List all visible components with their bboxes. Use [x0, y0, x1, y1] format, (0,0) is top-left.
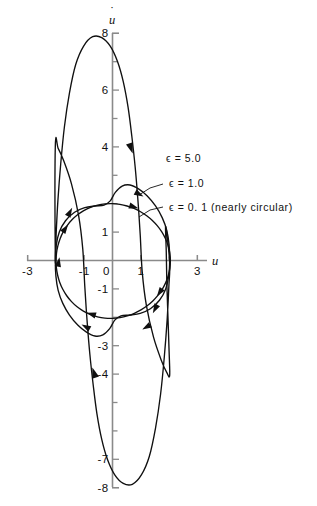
y-tick-label: 6 [102, 84, 109, 96]
arrow-epsilon-1-0-lower-left [82, 325, 92, 332]
arrow-epsilon-0-1-lower-left [87, 313, 97, 319]
x-tick-label: 1 [137, 265, 144, 277]
y-tick-label: -1 [97, 283, 108, 295]
arrow-epsilon-1-0-lower-right [153, 303, 160, 313]
legend-label-eps1: ϵ = 1.0 [169, 177, 204, 189]
x-tick-label: -3 [22, 265, 33, 277]
leader-line-eps1 [139, 184, 163, 195]
axes-group [27, 33, 207, 487]
y-tick-label: -3 [97, 340, 108, 352]
y-axis-label-dot: ˙ [111, 5, 115, 19]
legend-group: ϵ = 5.0 ϵ = 1.0 ϵ = 0. 1 (nearly circula… [166, 152, 293, 213]
y-tick-label: -4 [97, 368, 108, 380]
y-tick-label: 4 [102, 141, 109, 153]
arrow-epsilon-0-1-upper-right [128, 202, 138, 208]
phase-plane-plot: -3-10138641-1-3-4-7-8 u u ˙ ϵ = 5.0 ϵ = … [0, 0, 317, 506]
x-tick-label: 3 [194, 265, 201, 277]
y-axis-label: u ˙ [109, 5, 115, 27]
x-axis-label: u [212, 254, 218, 268]
arrow-epsilon-5-0-right [126, 142, 133, 153]
y-tick-label: 1 [102, 226, 109, 238]
arrow-epsilon-1-0-upper-left [65, 208, 72, 218]
y-tick-label: -8 [97, 482, 108, 494]
legend-label-eps5: ϵ = 5.0 [166, 152, 201, 164]
phase-plane-figure: -3-10138641-1-3-4-7-8 u u ˙ ϵ = 5.0 ϵ = … [0, 0, 317, 506]
legend-label-eps01: ϵ = 0. 1 (nearly circular) [169, 201, 293, 213]
x-tick-label: 0 [103, 265, 110, 277]
